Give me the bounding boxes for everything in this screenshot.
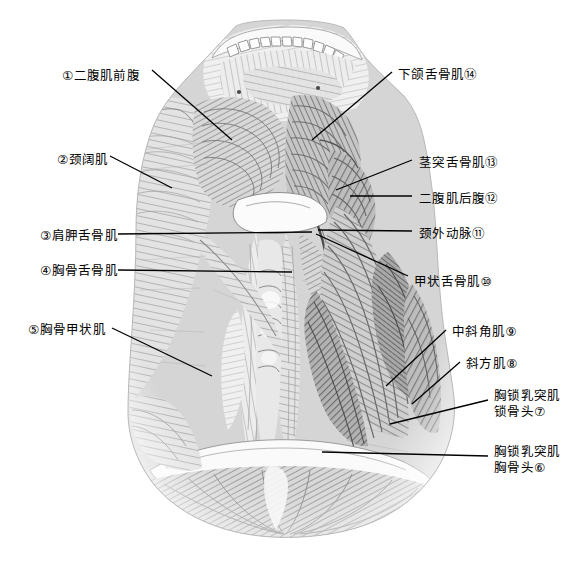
label-digastric-posterior-belly: 二腹肌后腹⑫: [419, 191, 499, 206]
label-thyrohyoid: 甲状舌骨肌⑩: [414, 274, 492, 289]
label-scm-sternal-head-line1: 胸锁乳突肌: [494, 444, 561, 460]
label-scm-clavicular-head: 胸锁乳突肌 锁骨头⑦: [494, 388, 561, 420]
label-omohyoid: ③肩胛舌骨肌: [40, 228, 118, 243]
label-middle-scalene: 中斜角肌⑨: [452, 324, 517, 339]
label-platysma: ②颈阔肌: [57, 152, 108, 167]
label-stylohyoid: 茎突舌骨肌⑬: [419, 155, 499, 170]
label-mylohyoid: 下颌舌骨肌⑭: [398, 67, 478, 82]
label-scm-clavicular-head-line1: 胸锁乳突肌: [494, 388, 561, 404]
label-sternothyroid: ⑤胸骨甲状肌: [28, 322, 106, 337]
label-sternohyoid: ④胸骨舌骨肌: [40, 263, 118, 278]
label-digastric-anterior-belly: ①二腹肌前腹: [62, 68, 140, 83]
label-trapezius: 斜方肌⑧: [466, 356, 517, 371]
label-scm-sternal-head-line2: 胸骨头⑥: [494, 460, 561, 476]
label-external-carotid-artery: 颈外动脉⑪: [419, 226, 486, 241]
label-scm-sternal-head: 胸锁乳突肌 胸骨头⑥: [494, 444, 561, 476]
label-scm-clavicular-head-line2: 锁骨头⑦: [494, 404, 561, 420]
anatomy-illustration: [0, 0, 587, 580]
